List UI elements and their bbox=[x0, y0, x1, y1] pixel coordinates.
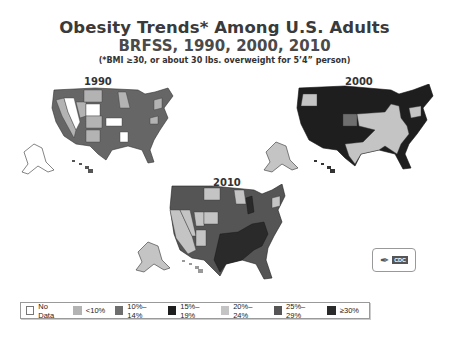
legend-label: 15%–19% bbox=[180, 302, 211, 320]
footnote: (*BMI ≥30, or about 30 lbs. overweight f… bbox=[0, 56, 449, 65]
legend-item-15-19: 15%–19% bbox=[168, 302, 211, 320]
page-title: Obesity Trends* Among U.S. Adults bbox=[0, 18, 449, 37]
legend-item-25-29: 25%–29% bbox=[274, 302, 317, 320]
hawaii-1990 bbox=[70, 158, 95, 174]
legend-label: ≥30% bbox=[340, 306, 359, 315]
legend-label: 10%–14% bbox=[127, 302, 158, 320]
legend-item-20-24: 20%–24% bbox=[221, 302, 264, 320]
legend-label: No Data bbox=[38, 302, 63, 320]
cdc-badge: CDC bbox=[392, 256, 408, 264]
legend-item-10-14: 10%–14% bbox=[115, 302, 158, 320]
swatch bbox=[168, 306, 176, 315]
legend-label: 20%–24% bbox=[233, 302, 264, 320]
hawaii-2010 bbox=[180, 258, 205, 274]
swatch bbox=[26, 306, 34, 315]
hawaii-2000 bbox=[312, 158, 337, 174]
swatch bbox=[221, 306, 229, 315]
page-subtitle: BRFSS, 1990, 2000, 2010 bbox=[0, 37, 449, 55]
swatch bbox=[274, 306, 282, 315]
legend-item-gte30: ≥30% bbox=[327, 306, 359, 315]
cdc-logo: ✒ CDC bbox=[372, 248, 416, 272]
legend-item-lt10: <10% bbox=[73, 306, 105, 315]
swatch bbox=[115, 306, 123, 315]
legend-label: 25%–29% bbox=[286, 302, 317, 320]
hhs-eagle-icon: ✒ bbox=[380, 254, 389, 267]
legend: No Data <10% 10%–14% 15%–19% 20%–24% 25%… bbox=[20, 302, 370, 319]
legend-item-no-data: No Data bbox=[26, 302, 63, 320]
legend-label: <10% bbox=[86, 306, 105, 315]
swatch bbox=[73, 306, 82, 315]
swatch bbox=[327, 306, 336, 315]
